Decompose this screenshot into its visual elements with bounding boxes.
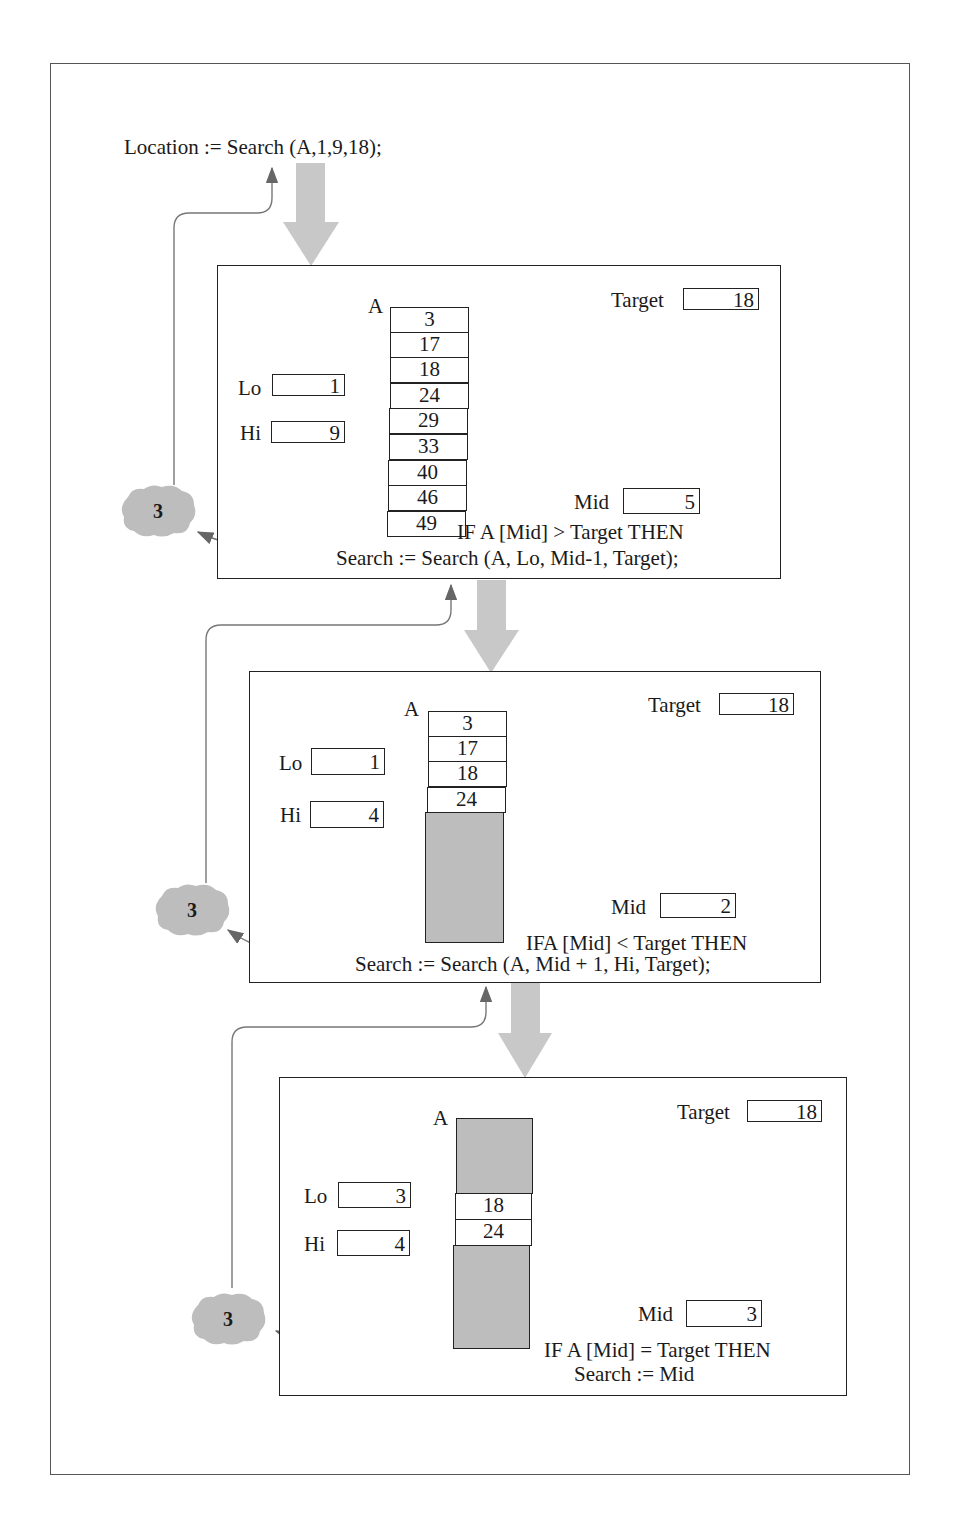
- array-label: A: [433, 1106, 448, 1130]
- lo-label: Lo: [238, 376, 261, 400]
- condition-text: IF A [Mid] > Target THEN: [457, 520, 684, 544]
- array-cell: 29: [389, 408, 468, 434]
- mid-value-box: 2: [660, 893, 736, 918]
- lo-value-box: 1: [272, 374, 345, 396]
- lo-label: Lo: [304, 1184, 327, 1208]
- return-value: 3: [152, 882, 232, 938]
- hi-label: Hi: [280, 803, 301, 827]
- hi-value-box: 4: [337, 1230, 410, 1256]
- array-cell: 24: [390, 383, 469, 409]
- array-cell: 24: [427, 787, 506, 813]
- target-label: Target: [648, 693, 701, 717]
- recursive-call-statement: Search := Search (A, Lo, Mid-1, Target);: [336, 546, 679, 570]
- mid-value-box: 3: [686, 1300, 762, 1327]
- target-label: Target: [611, 288, 664, 312]
- return-value: 3: [188, 1291, 268, 1347]
- hi-value-box: 4: [310, 801, 384, 828]
- array-cell: 3: [428, 711, 507, 737]
- array-cell: 49: [387, 511, 466, 537]
- return-value-blob: 3: [152, 882, 232, 938]
- recursive-call-statement: Search := Search (A, Mid + 1, Hi, Target…: [355, 952, 711, 976]
- array-label: A: [368, 294, 383, 318]
- mid-value-box: 5: [623, 488, 700, 514]
- array-cell: 24: [455, 1219, 532, 1246]
- target-value-box: 18: [747, 1100, 822, 1122]
- return-value-blob: 3: [118, 483, 198, 539]
- lo-value-box: 3: [338, 1182, 411, 1208]
- target-label: Target: [677, 1100, 730, 1124]
- lo-label: Lo: [279, 751, 302, 775]
- condition-text: IF A [Mid] = Target THEN: [544, 1338, 771, 1362]
- array-cell: 17: [428, 736, 507, 762]
- hi-label: Hi: [240, 421, 261, 445]
- mid-label: Mid: [611, 895, 646, 919]
- array-cell: 46: [388, 485, 467, 511]
- excluded-region: [456, 1118, 533, 1194]
- array-label: A: [404, 697, 419, 721]
- mid-label: Mid: [574, 490, 609, 514]
- return-value: 3: [118, 483, 198, 539]
- return-value-blob: 3: [188, 1291, 268, 1347]
- array-cell: 18: [455, 1193, 532, 1220]
- target-value-box: 18: [683, 288, 759, 310]
- array-cell: 33: [389, 434, 468, 460]
- hi-value-box: 9: [271, 421, 345, 443]
- base-case-statement: Search := Mid: [574, 1362, 694, 1386]
- excluded-region: [453, 1245, 530, 1349]
- mid-label: Mid: [638, 1302, 673, 1326]
- lo-value-box: 1: [311, 748, 385, 775]
- array-cell: 17: [390, 332, 469, 358]
- array-cell: 18: [390, 357, 469, 383]
- array-cell: 3: [390, 307, 469, 333]
- array-cell: 40: [388, 460, 467, 486]
- target-value-box: 18: [719, 693, 794, 715]
- hi-label: Hi: [304, 1232, 325, 1256]
- array-cell: 18: [428, 761, 507, 787]
- excluded-region: [425, 812, 504, 943]
- top-call-statement: Location := Search (A,1,9,18);: [124, 135, 382, 159]
